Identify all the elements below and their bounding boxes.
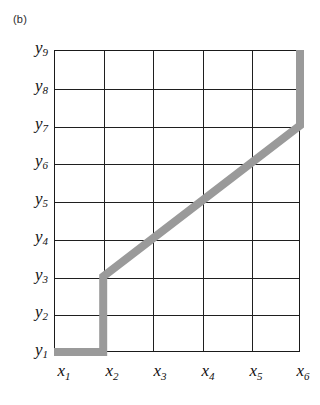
x-tick-label-group: x2 xyxy=(92,362,132,385)
y-tick-subscript: 4 xyxy=(43,235,49,247)
y-tick-label-group: y9 xyxy=(0,50,48,73)
y-tick-subscript: 3 xyxy=(43,273,49,285)
x-tick-subscript: 4 xyxy=(209,370,215,382)
y-tick-label-group: y5 xyxy=(0,201,48,224)
x-tick-label-x4: x4 xyxy=(201,361,214,380)
grid-line-horizontal xyxy=(55,89,299,90)
y-tick-base: y xyxy=(35,113,43,132)
x-tick-label-group: x6 xyxy=(283,362,320,385)
x-tick-label-x1: x1 xyxy=(57,361,70,380)
x-tick-label-group: x4 xyxy=(188,362,228,385)
y-tick-label-y7: y7 xyxy=(35,114,48,137)
x-tick-base: x xyxy=(153,361,161,380)
y-tick-subscript: 1 xyxy=(43,348,49,360)
grid-line-horizontal xyxy=(55,240,299,241)
y-tick-base: y xyxy=(35,340,43,359)
y-tick-label-y3: y3 xyxy=(35,265,48,288)
x-tick-subscript: 6 xyxy=(304,370,310,382)
x-tick-label-x6: x6 xyxy=(296,361,309,380)
y-tick-base: y xyxy=(35,38,43,57)
grid-line-vertical xyxy=(104,51,105,351)
grid-line-horizontal xyxy=(55,315,299,316)
y-tick-base: y xyxy=(35,75,43,94)
y-tick-subscript: 7 xyxy=(43,122,49,134)
y-tick-subscript: 5 xyxy=(43,197,49,209)
y-tick-label-group: y4 xyxy=(0,239,48,262)
x-tick-base: x xyxy=(249,361,257,380)
x-tick-base: x xyxy=(57,361,65,380)
x-tick-subscript: 2 xyxy=(113,370,119,382)
x-tick-label-x2: x2 xyxy=(105,361,118,380)
x-tick-subscript: 5 xyxy=(257,370,263,382)
y-tick-label-y2: y2 xyxy=(35,303,48,326)
x-tick-base: x xyxy=(105,361,113,380)
y-tick-label-group: y8 xyxy=(0,88,48,111)
grid-line-vertical xyxy=(153,51,154,351)
x-tick-subscript: 1 xyxy=(65,370,71,382)
grid-line-horizontal xyxy=(55,127,299,128)
y-tick-label-group: y2 xyxy=(0,314,48,337)
x-tick-label-group: x3 xyxy=(140,362,180,385)
y-tick-base: y xyxy=(35,151,43,170)
y-tick-subscript: 8 xyxy=(43,84,49,96)
figure-panel: (b) y9 y8 y7 y6 xyxy=(0,0,320,405)
y-tick-label-group: y6 xyxy=(0,163,48,186)
y-tick-label-y6: y6 xyxy=(35,152,48,175)
y-tick-label-y1: y1 xyxy=(35,341,48,364)
y-tick-base: y xyxy=(35,189,43,208)
x-tick-subscript: 3 xyxy=(161,370,167,382)
y-tick-subscript: 2 xyxy=(43,311,49,323)
y-tick-label-group: y7 xyxy=(0,126,48,149)
grid-line-horizontal xyxy=(55,278,299,279)
y-tick-label-y8: y8 xyxy=(35,76,48,99)
x-tick-label-x3: x3 xyxy=(153,361,166,380)
grid-line-horizontal xyxy=(55,164,299,165)
x-tick-label-group: x5 xyxy=(236,362,276,385)
x-tick-base: x xyxy=(296,361,304,380)
y-tick-label-y4: y4 xyxy=(35,227,48,250)
y-tick-label-y5: y5 xyxy=(35,190,48,213)
grid-line-vertical xyxy=(252,51,253,351)
grid-line-vertical xyxy=(203,51,204,351)
y-tick-label-group: y3 xyxy=(0,277,48,300)
panel-caption: (b) xyxy=(13,13,27,26)
y-tick-subscript: 6 xyxy=(43,160,49,172)
y-tick-label-y9: y9 xyxy=(35,39,48,62)
plot-area xyxy=(54,50,300,352)
x-tick-label-x5: x5 xyxy=(249,361,262,380)
y-tick-base: y xyxy=(35,226,43,245)
grid-line-horizontal xyxy=(55,202,299,203)
y-tick-base: y xyxy=(35,302,43,321)
x-tick-label-group: x1 xyxy=(44,362,84,385)
y-tick-base: y xyxy=(35,264,43,283)
y-tick-subscript: 9 xyxy=(43,46,49,58)
x-tick-base: x xyxy=(201,361,209,380)
y-tick-label-group: y1 xyxy=(0,352,48,375)
